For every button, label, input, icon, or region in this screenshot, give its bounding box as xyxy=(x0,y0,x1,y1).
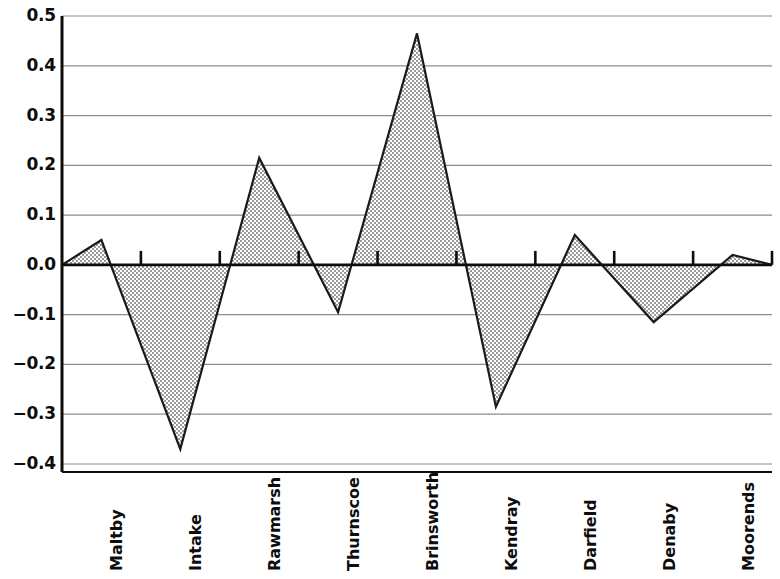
x-axis-category-label: Kendray xyxy=(504,497,520,571)
x-axis-category-label: Rawmarsh xyxy=(267,477,283,571)
x-axis-category-label: Darfield xyxy=(583,499,599,571)
chart-container: 0.50.40.30.20.10.0−0.1−0.2−0.3−0.4 Maltb… xyxy=(0,0,780,579)
x-axis-category-label: Thurnscoe xyxy=(346,477,362,571)
x-axis-category-label: Intake xyxy=(188,514,204,571)
x-axis-category-label: Moorends xyxy=(741,482,757,571)
x-axis-category-label: Brinsworth xyxy=(425,472,441,571)
x-axis-category-label: Denaby xyxy=(662,503,678,571)
x-axis-labels: MaltbyIntakeRawmarshThurnscoeBrinsworthK… xyxy=(0,0,780,579)
x-axis-category-label: Maltby xyxy=(109,509,125,571)
